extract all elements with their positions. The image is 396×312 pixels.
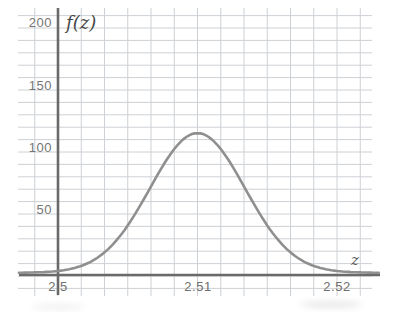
chart-figure: 200 150 100 50 2.5 2.51 2.52 f(z) z: [0, 0, 396, 312]
density-curve: [19, 133, 379, 273]
plot-canvas: [0, 0, 396, 312]
